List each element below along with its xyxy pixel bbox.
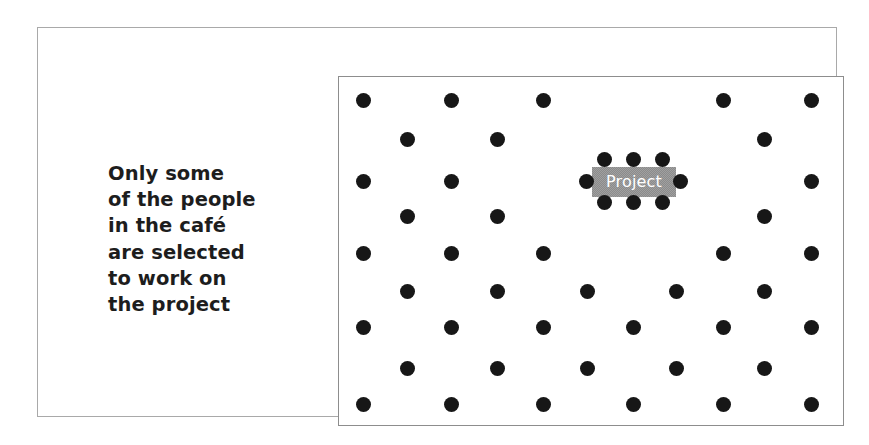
person-dot — [804, 397, 819, 412]
person-dot — [490, 361, 505, 376]
person-dot — [580, 361, 595, 376]
person-dot — [490, 209, 505, 224]
person-dot — [444, 93, 459, 108]
person-dot — [716, 397, 731, 412]
figure-outer-frame: Only some of the people in the café are … — [37, 27, 837, 417]
project-team-dot — [655, 152, 670, 167]
project-label: Project — [592, 167, 676, 197]
person-dot — [716, 93, 731, 108]
person-dot — [400, 132, 415, 147]
person-dot — [669, 361, 684, 376]
person-dot — [536, 397, 551, 412]
cafe-diagram-box: Project — [338, 76, 844, 426]
person-dot — [356, 320, 371, 335]
person-dot — [536, 246, 551, 261]
project-team-dot — [579, 174, 594, 189]
person-dot — [716, 320, 731, 335]
person-dot — [400, 284, 415, 299]
figure-caption: Only some of the people in the café are … — [108, 161, 308, 318]
project-team-dot — [626, 152, 641, 167]
person-dot — [804, 174, 819, 189]
person-dot — [757, 284, 772, 299]
person-dot — [490, 284, 505, 299]
person-dot — [580, 284, 595, 299]
person-dot — [444, 320, 459, 335]
figure-root: Only some of the people in the café are … — [0, 0, 869, 445]
person-dot — [716, 246, 731, 261]
person-dot — [444, 246, 459, 261]
person-dot — [804, 320, 819, 335]
project-team-dot — [655, 195, 670, 210]
person-dot — [356, 174, 371, 189]
person-dot — [444, 174, 459, 189]
person-dot — [356, 93, 371, 108]
person-dot — [490, 132, 505, 147]
person-dot — [757, 361, 772, 376]
person-dot — [757, 132, 772, 147]
person-dot — [536, 93, 551, 108]
person-dot — [626, 397, 641, 412]
project-team-dot — [597, 195, 612, 210]
person-dot — [669, 284, 684, 299]
project-team-dot — [597, 152, 612, 167]
project-team-dot — [626, 195, 641, 210]
person-dot — [804, 246, 819, 261]
person-dot — [804, 93, 819, 108]
project-team-dot — [673, 174, 688, 189]
person-dot — [757, 209, 772, 224]
person-dot — [536, 320, 551, 335]
person-dot — [400, 209, 415, 224]
person-dot — [444, 397, 459, 412]
project-label-text: Project — [606, 174, 662, 190]
person-dot — [356, 397, 371, 412]
person-dot — [400, 361, 415, 376]
person-dot — [626, 320, 641, 335]
person-dot — [356, 246, 371, 261]
